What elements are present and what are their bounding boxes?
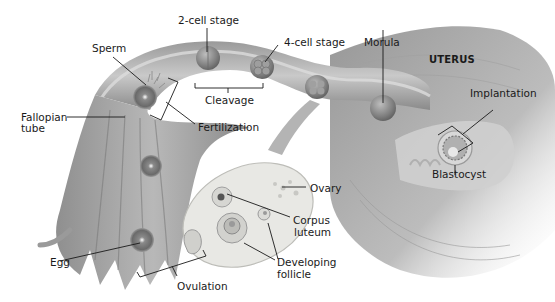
label-cleavage: Cleavage (205, 94, 254, 106)
label-uterus: UTERUS (429, 54, 475, 66)
label-fertilization: Fertilization (198, 121, 259, 133)
label-fallopian-tube-line2: tube (21, 122, 45, 134)
egg-in-tube (140, 155, 162, 177)
label-implantation: Implantation (470, 87, 537, 99)
label-morula: Morula (364, 36, 400, 48)
label-sperm: Sperm (92, 42, 126, 54)
four-cell-embryo (250, 55, 274, 79)
label-blastocyst: Blastocyst (432, 168, 486, 180)
blastocyst (438, 131, 472, 165)
label-developing-follicle-line1: Developing (277, 256, 336, 268)
label-4-cell-stage: 4-cell stage (284, 36, 345, 48)
label-developing-follicle-line2: follicle (277, 268, 311, 280)
label-corpus-luteum-line2: luteum (294, 226, 331, 238)
two-cell-embryo (196, 46, 220, 70)
egg-ovulated (130, 228, 154, 252)
label-2-cell-stage: 2-cell stage (178, 14, 239, 26)
label-ovary: Ovary (310, 182, 341, 194)
reproductive-tract-diagram: 2-cell stage 4-cell stage Morula UTERUS … (0, 0, 555, 302)
label-ovulation: Ovulation (177, 280, 228, 292)
label-corpus-luteum-line1: Corpus (293, 214, 330, 226)
eight-cell-embryo (305, 75, 329, 99)
label-egg: Egg (50, 256, 70, 268)
